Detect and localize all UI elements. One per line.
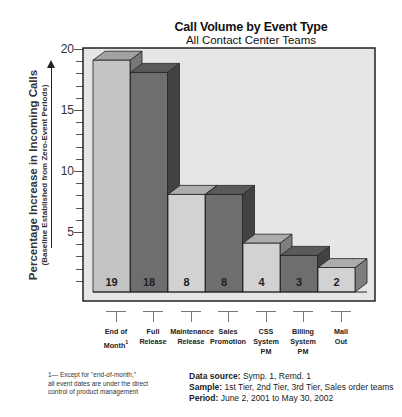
x-tick <box>266 311 267 322</box>
footnote: 1— Except for "end-of-month," all event … <box>48 371 158 397</box>
x-tick <box>341 311 342 322</box>
bar-value-label: 2 <box>333 276 339 288</box>
sample-label: Sample: <box>189 382 222 392</box>
period-label: Period: <box>189 393 218 403</box>
bar-value-label: 19 <box>105 276 117 288</box>
footnote-line: control of product management <box>48 388 158 397</box>
x-category-label: MailOut <box>320 327 361 347</box>
x-category-label: MaintenanceRelease <box>170 327 211 347</box>
bar-value-label: 8 <box>221 276 227 288</box>
bar-value-label: 3 <box>296 276 302 288</box>
x-tick <box>191 311 192 322</box>
x-category-label: FullRelease <box>132 327 173 347</box>
chart-meta: Data source: Symp. 1, Remd. 1 Sample: 1s… <box>189 371 399 404</box>
x-category-label: BillingSystemPM <box>282 327 323 357</box>
x-tick <box>153 311 154 322</box>
x-tick <box>228 311 229 322</box>
period-value: June 2, 2001 to May 30, 2002 <box>221 393 333 403</box>
bar-value-label: 18 <box>143 276 155 288</box>
x-category-label: CSSSystemPM <box>245 327 286 357</box>
x-tick <box>116 311 117 322</box>
x-tick <box>303 311 304 322</box>
sample: Sample: 1st Tier, 2nd Tier, 3rd Tier, Sa… <box>189 382 399 393</box>
footnote-line: 1— Except for "end-of-month," <box>48 371 158 380</box>
data-source-label: Data source: <box>189 371 241 381</box>
bar-value-label: 4 <box>258 276 265 288</box>
footnote-line: all event dates are under the direct <box>48 380 158 389</box>
period: Period: June 2, 2001 to May 30, 2002 <box>189 393 399 404</box>
sample-value: 1st Tier, 2nd Tier, 3rd Tier, Sales orde… <box>224 382 393 392</box>
x-category-label: SalesPromotion <box>207 327 248 347</box>
bar: 2 <box>318 259 367 292</box>
data-source: Data source: Symp. 1, Remd. 1 <box>189 371 399 382</box>
bar-value-label: 8 <box>183 276 189 288</box>
data-source-value: Symp. 1, Remd. 1 <box>243 371 311 381</box>
chart-plot: 191888432 <box>0 0 402 417</box>
x-category-label: End ofMonth1 <box>95 327 136 351</box>
